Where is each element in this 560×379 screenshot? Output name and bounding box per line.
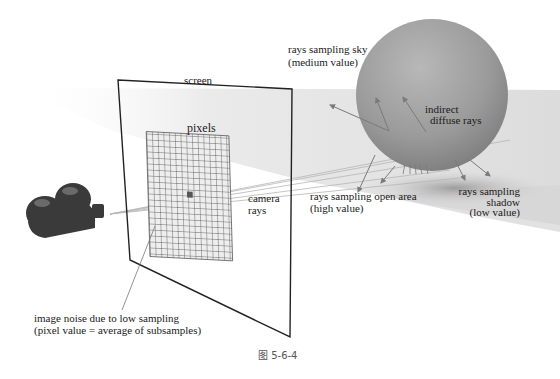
open-area-label-line1: rays sampling open area: [310, 191, 417, 202]
sky-rays-label-line1: rays sampling sky: [288, 44, 367, 55]
movie-camera-icon: [26, 183, 104, 238]
noise-label-line2: (pixel value = average of subsamples): [34, 325, 201, 336]
noise-leader-line: [122, 226, 155, 310]
pixel-grid: [146, 132, 232, 261]
shadow-label-line3: (low value): [470, 207, 520, 218]
figure-caption: 图 5-6-4: [258, 347, 297, 362]
camera-rays-label-line2: rays: [248, 205, 266, 216]
screen-label: screen: [184, 75, 212, 86]
open-area-label-line2: (high value): [310, 203, 363, 214]
camera-rays-label-line1: camera: [248, 193, 280, 204]
pixels-label: pixels: [187, 123, 216, 134]
noise-label-line1: image noise due to low sampling: [34, 313, 179, 324]
sky-rays-label-line2: (medium value): [288, 57, 358, 68]
indirect-rays-label-line2: diffuse rays: [430, 115, 481, 126]
diagram-stage: screen pixels camera rays rays sampling …: [0, 0, 560, 379]
sphere-object: [356, 19, 508, 171]
